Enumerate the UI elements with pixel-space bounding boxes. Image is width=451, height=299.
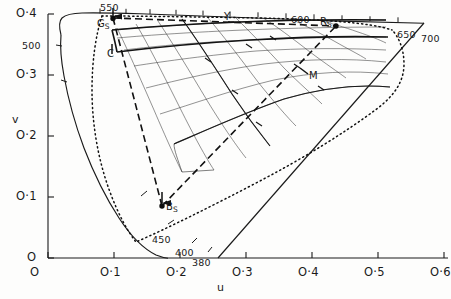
- yellow-point-label-text: Y: [224, 11, 230, 22]
- green-primary-label-sub: S: [105, 22, 110, 31]
- y-tick-label-0: O: [27, 250, 36, 264]
- wavelength-tick-marks: [56, 9, 398, 253]
- wavelength-label-650: 650: [397, 29, 416, 40]
- x-tick-label-0-2: O·2: [166, 265, 187, 279]
- wavelength-label-400: 400: [175, 247, 194, 258]
- wavelength-label-700: 700: [421, 33, 440, 44]
- plot-canvas: [0, 0, 451, 299]
- magenta-point-marker: [300, 68, 308, 74]
- gamut-mesh: [112, 18, 390, 172]
- red-primary-label: RS: [320, 16, 332, 27]
- mesh-direction-ticks: [205, 36, 324, 126]
- y-tick-label-0-1: O·1: [16, 189, 37, 203]
- x-tick-label-0-6: O·6: [430, 265, 451, 279]
- blue-primary-label: BS: [166, 201, 178, 212]
- chromaticity-diagram-figure: O·4 O·3 O·2 O·1 O O O·1 O·2 O·3 O·4 O·5 …: [0, 0, 451, 299]
- wavelength-label-380: 380: [192, 257, 211, 268]
- red-primary-label-sub: S: [327, 20, 332, 29]
- dashed-edge-blue-red: [162, 26, 336, 206]
- x-tick-label-0: O: [30, 265, 39, 279]
- y-tick-label-0-4: O·4: [16, 6, 37, 20]
- blue-primary-marker: [159, 203, 164, 208]
- green-primary-label-text: G: [97, 18, 105, 29]
- magenta-point-label: M: [309, 70, 318, 81]
- spectral-locus-lower: [61, 35, 168, 258]
- pointer-arrows: [113, 8, 162, 203]
- blue-primary-label-text: B: [166, 201, 173, 212]
- cyan-point-label: C: [107, 48, 114, 59]
- red-primary-label-text: R: [320, 16, 327, 27]
- wavelength-label-450: 450: [152, 234, 171, 245]
- y-tick-label-0-3: O·3: [16, 67, 37, 81]
- x-axis-title: u: [217, 281, 224, 294]
- y-tick-label-0-2: O·2: [16, 128, 37, 142]
- green-primary-label: GS: [97, 18, 110, 29]
- x-tick-label-0-5: O·5: [364, 265, 385, 279]
- blue-primary-label-sub: S: [173, 205, 178, 214]
- wavelength-label-600: 600: [291, 14, 310, 25]
- line-of-purples: [218, 23, 424, 258]
- yellow-point-label: Y: [224, 11, 230, 22]
- wavelength-label-500: 500: [22, 40, 41, 51]
- x-tick-label-0-4: O·4: [298, 265, 319, 279]
- y-axis-title: v: [12, 113, 19, 126]
- green-primary-marker: [110, 16, 115, 21]
- red-primary-marker: [333, 23, 338, 28]
- magenta-point-label-text: M: [309, 70, 318, 81]
- primary-markers: [110, 16, 338, 209]
- x-axis-ticks: [48, 252, 444, 258]
- x-tick-label-0-1: O·1: [100, 265, 121, 279]
- cyan-point-label-text: C: [107, 48, 114, 59]
- x-tick-label-0-3: O·3: [232, 265, 253, 279]
- wavelength-label-550: 550: [100, 2, 119, 13]
- y-axis-ticks: [48, 14, 54, 258]
